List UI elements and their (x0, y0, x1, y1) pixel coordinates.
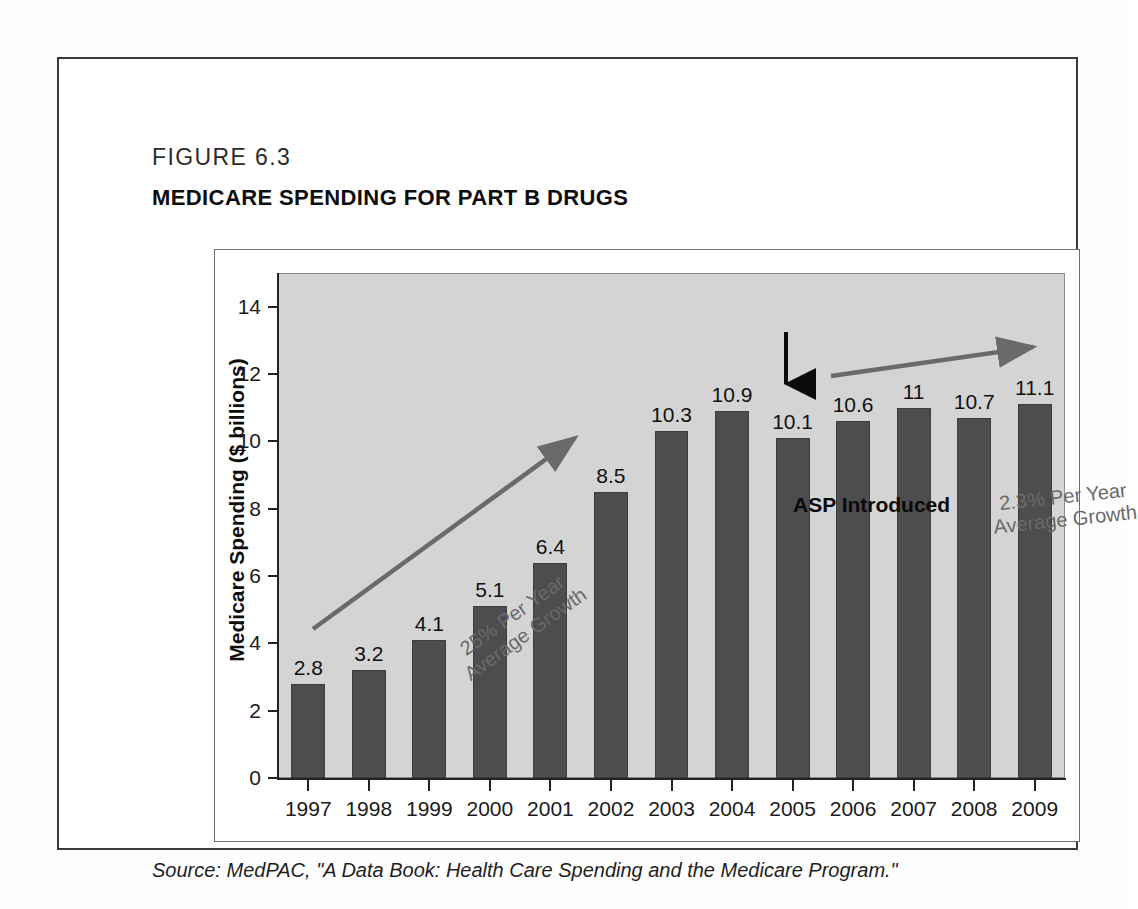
y-tick-label: 4 (215, 632, 261, 653)
bar (957, 418, 991, 778)
bar (776, 438, 810, 778)
y-tick-mark (268, 710, 278, 712)
y-tick-mark (268, 306, 278, 308)
y-tick-label: 6 (215, 565, 261, 586)
bar-value-label: 10.3 (635, 404, 709, 425)
bar-value-label: 8.5 (574, 465, 648, 486)
bar (291, 684, 325, 778)
y-tick-label: 10 (215, 430, 261, 451)
y-tick-label: 14 (215, 296, 261, 317)
bar (655, 431, 689, 778)
page-title: MEDICARE SPENDING FOR PART B DRUGS (152, 185, 628, 211)
x-tick-mark (671, 780, 673, 791)
bar-value-label: 10.9 (695, 384, 769, 405)
bar (836, 421, 870, 778)
bar-value-label: 6.4 (513, 536, 587, 557)
x-tick-mark (913, 780, 915, 791)
bar (1018, 404, 1052, 778)
source-note: Source: MedPAC, "A Data Book: Health Car… (152, 859, 898, 882)
y-tick-label: 8 (215, 498, 261, 519)
x-tick-label: 2009 (998, 798, 1072, 819)
x-tick-mark (973, 780, 975, 791)
x-tick-mark (428, 780, 430, 791)
y-tick-label: 0 (215, 767, 261, 788)
bar (352, 670, 386, 778)
x-tick-mark (852, 780, 854, 791)
y-tick-mark (268, 575, 278, 577)
x-tick-mark (731, 780, 733, 791)
x-tick-mark (549, 780, 551, 791)
asp-annotation-label: ASP Introduced (793, 493, 950, 517)
y-tick-mark (268, 508, 278, 510)
y-axis-line (277, 273, 279, 780)
x-tick-mark (368, 780, 370, 791)
x-tick-mark (489, 780, 491, 791)
bar-value-label: 5.1 (453, 579, 527, 600)
y-tick-mark (268, 440, 278, 442)
bar (594, 492, 628, 778)
figure-number: FIGURE 6.3 (152, 144, 291, 171)
x-tick-mark (792, 780, 794, 791)
x-tick-mark (307, 780, 309, 791)
x-tick-mark (1034, 780, 1036, 791)
y-tick-mark (268, 642, 278, 644)
y-tick-label: 2 (215, 700, 261, 721)
x-tick-mark (610, 780, 612, 791)
bar (897, 408, 931, 778)
bar-value-label: 3.2 (332, 643, 406, 664)
y-tick-mark (268, 777, 278, 779)
bar (715, 411, 749, 778)
y-tick-label: 12 (215, 363, 261, 384)
page-border: FIGURE 6.3 MEDICARE SPENDING FOR PART B … (57, 57, 1078, 850)
y-tick-mark (268, 373, 278, 375)
bar-value-label: 11.1 (998, 377, 1072, 398)
bar (412, 640, 446, 778)
bar-value-label: 4.1 (392, 613, 466, 634)
chart-container: Medicare Spending ($ billions) 024681012… (214, 249, 1080, 842)
